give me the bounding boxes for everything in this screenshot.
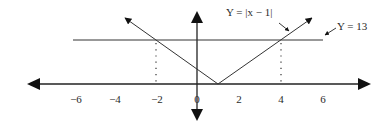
abs-function-label: Y = |x − 1| <box>226 6 272 18</box>
x-axis-left-arrow-icon <box>27 78 40 90</box>
horizontal-line-label: Y = 13 <box>337 20 368 32</box>
x-tick-label: 4 <box>278 93 284 105</box>
x-tick-label: −6 <box>70 93 82 105</box>
x-tick-label: 0 <box>194 93 200 105</box>
x-tick-labels: −6 −4 −2 0 2 4 6 <box>70 93 326 105</box>
y-axis-up-arrow-icon <box>191 11 203 23</box>
x-tick-label: −4 <box>109 93 121 105</box>
abs-label-pointer-arrow-icon <box>279 23 289 31</box>
absolute-value-series <box>125 18 312 84</box>
x-axis-right-arrow-icon <box>358 78 371 90</box>
x-tick-label: 2 <box>236 93 242 105</box>
y-axis-down-arrow-icon <box>191 109 203 121</box>
x-axis <box>27 78 371 90</box>
x-tick-label: 6 <box>320 93 326 105</box>
absolute-value-graph: −6 −4 −2 0 2 4 6 Y = |x − 1| Y = 13 <box>0 0 391 129</box>
horizontal-label-pointer-arrow-icon <box>325 28 336 35</box>
x-tick-label: −2 <box>151 93 163 105</box>
